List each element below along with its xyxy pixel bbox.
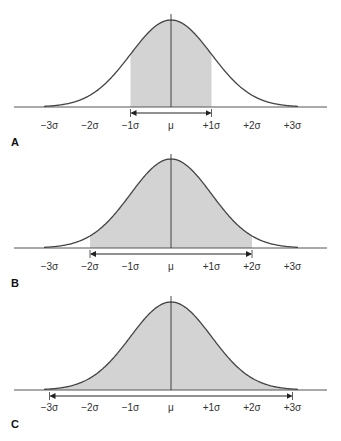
tick-label: −1σ: [122, 261, 140, 272]
tick-label: −3σ: [41, 261, 59, 272]
tick-label: +1σ: [203, 261, 221, 272]
tick-label: +3σ: [284, 261, 302, 272]
tick-label: +3σ: [284, 120, 302, 131]
panel-b: −3σ−2σ−1σμ+1σ+2σ+3σB: [11, 154, 327, 289]
tick-label: μ: [168, 120, 174, 131]
tick-label: −1σ: [122, 402, 140, 413]
tick-label: +2σ: [243, 120, 261, 131]
tick-label: +1σ: [203, 120, 221, 131]
panel-a: −3σ−2σ−1σμ+1σ+2σ+3σA: [11, 14, 327, 148]
tick-label: −2σ: [81, 120, 99, 131]
panel-c: −3σ−2σ−1σμ+1σ+2σ+3σC: [11, 296, 327, 430]
panel-label: C: [11, 418, 19, 430]
panel-label: A: [11, 136, 19, 148]
tick-label: −3σ: [41, 402, 59, 413]
tick-label: −2σ: [81, 402, 99, 413]
tick-label: −2σ: [81, 261, 99, 272]
tick-label: +2σ: [243, 402, 261, 413]
tick-label: +3σ: [284, 402, 302, 413]
tick-label: μ: [168, 402, 174, 413]
panel-label: B: [11, 277, 19, 289]
tick-label: −3σ: [41, 120, 59, 131]
normal-distribution-figure: −3σ−2σ−1σμ+1σ+2σ+3σA−3σ−2σ−1σμ+1σ+2σ+3σB…: [0, 0, 341, 441]
tick-label: −1σ: [122, 120, 140, 131]
tick-label: +2σ: [243, 261, 261, 272]
tick-label: μ: [168, 261, 174, 272]
tick-label: +1σ: [203, 402, 221, 413]
